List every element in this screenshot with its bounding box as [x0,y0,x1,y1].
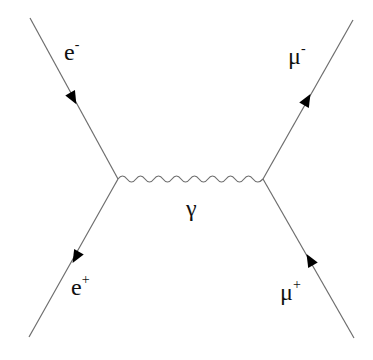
electron-label: e- [64,40,79,64]
positron-label: e+ [71,275,90,299]
muon-label: μ- [288,44,306,68]
electron-label-charge: - [75,37,80,52]
electron-arrow-icon [65,90,81,107]
photon-propagator [118,176,263,182]
electron-label-base: e [64,39,75,65]
muon-label-base: μ [288,43,301,69]
antimuon-label-charge: + [293,277,301,292]
antimuon-label: μ+ [280,280,301,304]
photon-label: γ [186,196,197,220]
feynman-diagram [0,0,373,360]
muon-label-charge: - [301,41,306,56]
muon-arrow-icon [299,91,315,108]
positron-label-charge: + [82,272,90,287]
antimuon-label-base: μ [280,279,293,305]
antimuon-arrow-icon [302,251,318,268]
positron-label-base: e [71,274,82,300]
